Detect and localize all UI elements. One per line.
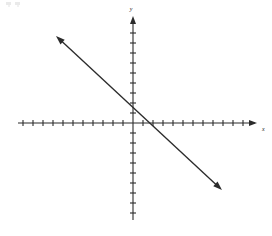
graph-canvas: x y [0, 0, 272, 236]
x-axis-label: x [261, 126, 265, 132]
plotted-line-series [56, 36, 222, 190]
scan-noise-artifact [6, 2, 20, 7]
x-axis: x [18, 120, 265, 132]
coordinate-plane-figure: x y [0, 0, 272, 236]
y-axis: y [129, 6, 136, 220]
x-axis-arrowhead [249, 120, 257, 126]
y-axis-arrowhead [130, 16, 136, 24]
y-axis-label: y [129, 6, 133, 12]
plotted-line [61, 41, 217, 186]
